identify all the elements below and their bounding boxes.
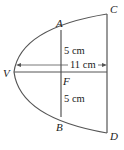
label-a: A [55,17,63,29]
upper-half-chord-length: 5 cm [64,45,85,56]
label-d: D [109,130,118,142]
label-b: B [56,121,63,133]
label-c: C [110,3,118,15]
depth-length: 11 cm [70,59,96,70]
label-v: V [3,67,11,79]
arrowhead-left-icon [16,63,21,67]
arrowhead-right-icon [102,63,107,67]
lower-half-chord-length: 5 cm [64,93,85,104]
parabola-diagram: C A V F B D 5 cm 11 cm 5 cm [0,0,124,150]
label-f: F [62,75,70,87]
